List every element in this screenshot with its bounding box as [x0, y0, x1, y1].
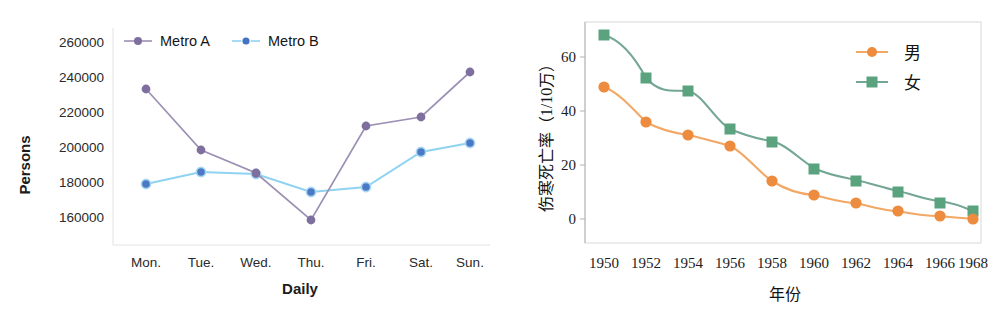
- right-xtick-1966: 1966: [925, 255, 956, 271]
- right-xtick-1960: 1960: [799, 255, 829, 271]
- right-xtick-1964: 1964: [883, 255, 914, 271]
- male-point-1958: [766, 175, 777, 186]
- figure-pair-canvas: 260000 240000 220000 200000 180000 16000…: [0, 0, 993, 330]
- left-ytick-260000: 260000: [59, 35, 104, 50]
- legend-marker-metro-b-circle-icon: [242, 37, 250, 45]
- right-ytick-0: 0: [569, 211, 577, 227]
- legend-label-metro-b: Metro B: [268, 33, 319, 49]
- chart-metro-daily: 260000 240000 220000 200000 180000 16000…: [0, 0, 500, 330]
- male-point-1968: [967, 213, 978, 224]
- male-point-1960: [808, 189, 819, 200]
- right-xtick-1962: 1962: [841, 255, 871, 271]
- legend-label-female: 女: [904, 74, 921, 93]
- left-xtick-mon: Mon.: [131, 255, 161, 270]
- right-xtick-1952: 1952: [631, 255, 661, 271]
- metro-a-point-thu: [307, 216, 316, 225]
- male-point-1954: [682, 129, 693, 140]
- metro-a-point-sat: [417, 113, 426, 122]
- right-ytick-60: 60: [561, 49, 576, 65]
- right-y-axis-title: 伤寒死亡率（1/10万）: [537, 56, 555, 212]
- metro-daily-svg: 260000 240000 220000 200000 180000 16000…: [0, 0, 500, 330]
- left-xtick-sat: Sat.: [409, 255, 433, 270]
- right-x-axis-title: 年份: [769, 286, 801, 303]
- left-ytick-180000: 180000: [59, 175, 104, 190]
- metro-a-point-sun: [466, 68, 475, 77]
- metro-a-point-fri: [362, 122, 371, 131]
- typhoid-mortality-svg: 60 40 20 0 伤寒死亡率（1/10万） 1950 1952 1954 1…: [500, 0, 993, 330]
- chart-typhoid-mortality: 60 40 20 0 伤寒死亡率（1/10万） 1950 1952 1954 1…: [500, 0, 993, 330]
- female-point-1964: [893, 187, 904, 198]
- legend-marker-male-circle-icon: [867, 47, 877, 57]
- metro-a-point-wed: [252, 169, 261, 178]
- right-xtick-1950: 1950: [589, 255, 619, 271]
- legend-label-metro-a: Metro A: [160, 33, 210, 49]
- left-legend: Metro A Metro B: [124, 33, 319, 49]
- metro-b-point-fri: [361, 182, 370, 191]
- male-point-1952: [640, 116, 651, 127]
- metro-b-point-sat: [416, 147, 425, 156]
- metro-a-line: [146, 72, 470, 220]
- left-xtick-thu: Thu.: [297, 255, 324, 270]
- left-ytick-240000: 240000: [59, 70, 104, 85]
- left-ytick-200000: 200000: [59, 140, 104, 155]
- metro-b-point-sun: [465, 138, 474, 147]
- male-point-1966: [934, 210, 945, 221]
- left-y-axis-title: Persons: [16, 135, 33, 194]
- legend-marker-metro-a-circle-icon: [134, 37, 142, 45]
- left-xtick-wed: Wed.: [240, 255, 271, 270]
- series-metro-b: [141, 138, 474, 196]
- left-xtick-fri: Fri.: [356, 255, 376, 270]
- male-point-1964: [892, 205, 903, 216]
- male-point-1956: [724, 140, 735, 151]
- left-legend-entry-metro-a[interactable]: Metro A: [124, 33, 210, 49]
- metro-b-point-thu: [306, 187, 315, 196]
- left-ytick-220000: 220000: [59, 105, 104, 120]
- female-point-1966: [935, 198, 946, 209]
- legend-marker-female-square-icon: [867, 77, 878, 88]
- left-xtick-tue: Tue.: [188, 255, 215, 270]
- right-xtick-1968: 1968: [958, 255, 988, 271]
- right-ytick-40: 40: [561, 103, 576, 119]
- female-point-1954: [683, 86, 694, 97]
- right-xtick-1954: 1954: [673, 255, 704, 271]
- legend-label-male: 男: [904, 44, 921, 63]
- female-point-1950: [599, 30, 610, 41]
- left-ytick-160000: 160000: [59, 210, 104, 225]
- series-metro-a: [142, 68, 475, 225]
- female-point-1960: [809, 164, 820, 175]
- right-legend-entry-female[interactable]: 女: [856, 74, 921, 93]
- female-point-1956: [725, 124, 736, 135]
- series-male: [598, 81, 978, 224]
- female-point-1958: [767, 137, 778, 148]
- right-ytick-20: 20: [561, 157, 576, 173]
- right-y-axis: 60 40 20 0: [561, 22, 585, 243]
- male-line: [604, 87, 973, 219]
- female-point-1952: [641, 73, 652, 84]
- metro-b-point-tue: [196, 167, 205, 176]
- male-point-1950: [598, 81, 609, 92]
- right-xtick-1956: 1956: [715, 255, 746, 271]
- left-xtick-sun: Sun.: [456, 255, 484, 270]
- female-point-1962: [851, 176, 862, 187]
- male-point-1962: [850, 197, 861, 208]
- metro-a-point-tue: [197, 146, 206, 155]
- left-x-axis-title: Daily: [282, 280, 319, 297]
- metro-a-point-mon: [142, 85, 151, 94]
- metro-b-point-mon: [141, 179, 150, 188]
- left-legend-entry-metro-b[interactable]: Metro B: [232, 33, 319, 49]
- right-panel-frame: [585, 22, 981, 243]
- right-xtick-1958: 1958: [757, 255, 787, 271]
- right-legend: 男 女: [856, 44, 921, 93]
- right-legend-entry-male[interactable]: 男: [856, 44, 921, 63]
